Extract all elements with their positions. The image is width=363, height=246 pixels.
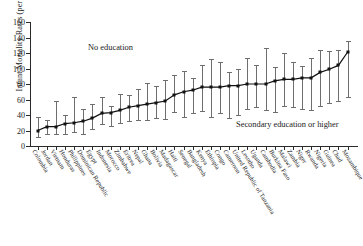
error-bar-cap bbox=[136, 89, 141, 90]
data-point bbox=[328, 68, 331, 71]
error-bar-cap bbox=[336, 50, 341, 51]
error-bar-cap bbox=[291, 62, 296, 63]
error-bar bbox=[275, 67, 276, 112]
error-bar bbox=[111, 106, 112, 126]
error-bar-cap bbox=[245, 109, 250, 110]
y-tick-label: 80 bbox=[17, 80, 25, 89]
error-bar bbox=[338, 50, 339, 101]
error-bar-cap bbox=[327, 103, 332, 104]
error-bar-cap bbox=[218, 62, 223, 63]
error-bar-cap bbox=[54, 134, 59, 135]
error-bar-cap bbox=[172, 112, 177, 113]
y-tick-80: 80 bbox=[30, 84, 34, 85]
error-bar bbox=[348, 41, 349, 98]
y-axis-title: Infant Mortality Rates (per 1,000 live b… bbox=[15, 0, 24, 92]
error-bar-cap bbox=[136, 120, 141, 121]
data-point bbox=[136, 104, 139, 107]
data-point bbox=[100, 112, 103, 115]
data-point bbox=[282, 78, 285, 81]
error-bar-cap bbox=[163, 119, 168, 120]
data-point bbox=[164, 100, 167, 103]
error-bar-cap bbox=[109, 126, 114, 127]
data-point bbox=[54, 125, 57, 128]
error-bar-cap bbox=[346, 41, 351, 42]
y-tick-mark bbox=[26, 131, 30, 132]
data-point bbox=[173, 93, 176, 96]
error-bar-cap bbox=[236, 115, 241, 116]
error-bar-cap bbox=[254, 65, 259, 66]
y-tick-0: 0 bbox=[30, 146, 34, 147]
data-point bbox=[300, 76, 303, 79]
y-tick-label: 160 bbox=[13, 18, 25, 27]
error-bar-cap bbox=[81, 134, 86, 135]
data-point bbox=[264, 83, 267, 86]
error-bar-cap bbox=[54, 101, 59, 102]
error-bar-cap bbox=[318, 106, 323, 107]
error-bar bbox=[329, 51, 330, 102]
data-point bbox=[209, 86, 212, 89]
error-bar-cap bbox=[45, 134, 50, 135]
error-bar-cap bbox=[245, 58, 250, 59]
data-point bbox=[237, 84, 240, 87]
data-point bbox=[346, 51, 349, 54]
data-point bbox=[73, 121, 76, 124]
y-tick-60: 60 bbox=[30, 100, 34, 101]
data-point bbox=[228, 84, 231, 87]
x-axis-labels: ColombiaJordanVietnamHondurasPhilippines… bbox=[30, 148, 358, 244]
error-bar-cap bbox=[327, 51, 332, 52]
error-bar-cap bbox=[90, 129, 95, 130]
error-bar-cap bbox=[145, 120, 150, 121]
error-bar-cap bbox=[127, 121, 132, 122]
x-axis-line bbox=[30, 146, 358, 147]
annotation-secondary-education: Secondary education or higher bbox=[236, 120, 339, 129]
y-tick-label: 60 bbox=[17, 95, 25, 104]
y-tick-label: 0 bbox=[21, 142, 25, 151]
error-bar-cap bbox=[218, 113, 223, 114]
error-bar-cap bbox=[36, 137, 41, 138]
error-bar-cap bbox=[145, 83, 150, 84]
error-bar-cap bbox=[63, 134, 68, 135]
data-point bbox=[182, 90, 185, 93]
y-tick-label: 100 bbox=[13, 64, 25, 73]
error-bar-cap bbox=[209, 59, 214, 60]
data-point bbox=[191, 89, 194, 92]
y-tick-label: 120 bbox=[13, 49, 25, 58]
error-bar-cap bbox=[118, 94, 123, 95]
y-tick-mark bbox=[26, 100, 30, 101]
error-bar-cap bbox=[100, 97, 105, 98]
error-bar bbox=[193, 78, 194, 113]
error-bar bbox=[56, 101, 57, 134]
error-bar-cap bbox=[300, 109, 305, 110]
error-bar-cap bbox=[90, 104, 95, 105]
error-bar-cap bbox=[191, 113, 196, 114]
y-tick-mark bbox=[26, 69, 30, 70]
data-point bbox=[36, 129, 39, 132]
error-bar bbox=[229, 72, 230, 119]
error-bar-cap bbox=[273, 112, 278, 113]
data-point bbox=[64, 122, 67, 125]
error-bar-cap bbox=[200, 65, 205, 66]
error-bar-cap bbox=[154, 86, 159, 87]
error-bar bbox=[74, 97, 75, 132]
error-bar-cap bbox=[309, 58, 314, 59]
data-point bbox=[337, 64, 340, 67]
error-bar-cap bbox=[127, 95, 132, 96]
error-bar-cap bbox=[264, 110, 269, 111]
y-tick-mark bbox=[26, 115, 30, 116]
error-bar-cap bbox=[227, 72, 232, 73]
data-point bbox=[109, 111, 112, 114]
y-tick-label: 140 bbox=[13, 33, 25, 42]
y-tick-140: 140 bbox=[30, 38, 34, 39]
error-bar-cap bbox=[72, 132, 77, 133]
y-tick-mark bbox=[26, 84, 30, 85]
data-point bbox=[45, 125, 48, 128]
y-tick-120: 120 bbox=[30, 53, 34, 54]
y-tick-160: 160 bbox=[30, 22, 34, 23]
data-point bbox=[310, 76, 313, 79]
data-point bbox=[200, 86, 203, 89]
data-point bbox=[273, 79, 276, 82]
data-point bbox=[127, 106, 130, 109]
data-point bbox=[118, 109, 121, 112]
error-bar-cap bbox=[309, 110, 314, 111]
data-point bbox=[291, 78, 294, 81]
